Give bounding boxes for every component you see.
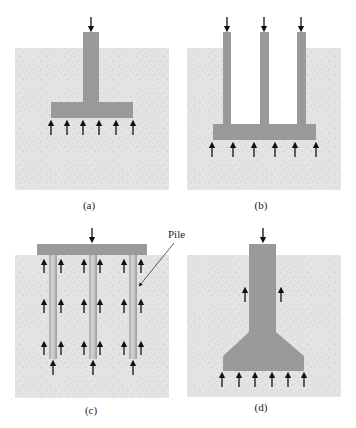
load-arrows-icon — [227, 17, 301, 29]
panel-b-mat-foundation: (b) — [187, 17, 341, 212]
gap-between-columns — [231, 48, 260, 125]
column — [83, 32, 99, 104]
column — [223, 32, 231, 126]
panel-a-spread-footing: (a) — [15, 17, 169, 212]
pile-annotation: Pile — [168, 228, 185, 240]
column — [260, 32, 269, 126]
pile — [89, 255, 97, 359]
panel-label-c: (c) — [85, 404, 98, 417]
panel-label-a: (a) — [83, 199, 96, 212]
mat-slab — [213, 124, 316, 140]
pile-cap — [37, 244, 147, 255]
foundation-diagram: (a) (b) — [0, 0, 356, 428]
panel-d-drilled-shaft: (d) — [187, 228, 341, 414]
footing — [51, 102, 133, 118]
panel-label-b: (b) — [255, 199, 268, 212]
pile — [49, 255, 57, 359]
gap-between-columns — [269, 48, 297, 125]
column — [297, 32, 306, 126]
panel-label-d: (d) — [255, 401, 268, 414]
panel-c-pile-foundation: Pile (c) — [15, 228, 185, 417]
pile — [129, 255, 137, 359]
